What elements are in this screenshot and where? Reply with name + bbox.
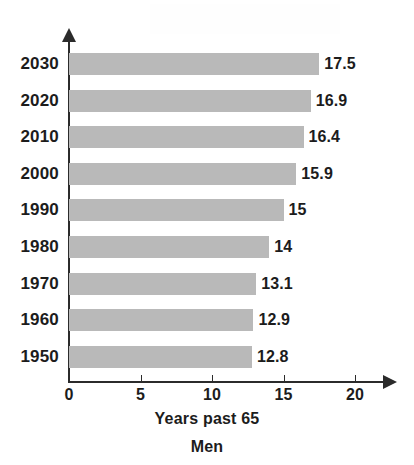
y-axis-arrow-icon <box>62 28 76 42</box>
x-tick <box>69 375 70 382</box>
bar-chart: 203017.5202016.9201016.4200015.919901519… <box>0 0 414 465</box>
bar-row: 203017.5 <box>0 53 414 75</box>
bar <box>69 199 284 221</box>
bar-value-label: 12.9 <box>258 308 290 331</box>
x-axis-line <box>68 381 386 383</box>
x-tick-label: 10 <box>203 386 221 404</box>
x-tick-label: 0 <box>64 386 73 404</box>
x-tick <box>284 375 285 382</box>
x-tick <box>212 375 213 382</box>
category-label: 2030 <box>20 51 59 76</box>
x-axis-subtitle: Men <box>0 438 414 456</box>
bar <box>69 90 311 112</box>
category-label: 1980 <box>20 234 59 259</box>
category-label: 2000 <box>20 161 59 186</box>
category-label: 1960 <box>20 307 59 332</box>
bar-value-label: 16.9 <box>316 89 348 112</box>
bar-row: 197013.1 <box>0 273 414 295</box>
bar-row: 195012.8 <box>0 346 414 368</box>
bar-row: 198014 <box>0 236 414 258</box>
bar-value-label: 16.4 <box>309 125 341 148</box>
bar <box>69 53 319 75</box>
bar-value-label: 14 <box>274 235 292 258</box>
bar <box>69 236 269 258</box>
x-axis-title: Years past 65 <box>0 410 414 428</box>
bar <box>69 346 252 368</box>
bar-row: 199015 <box>0 199 414 221</box>
x-axis-arrow-icon <box>383 375 397 389</box>
x-tick <box>355 375 356 382</box>
x-tick <box>141 375 142 382</box>
bar-value-label: 15.9 <box>301 162 333 185</box>
category-label: 2010 <box>20 124 59 149</box>
bar-row: 202016.9 <box>0 90 414 112</box>
bar-value-label: 13.1 <box>261 272 293 295</box>
bar <box>69 309 253 331</box>
category-label: 2020 <box>20 88 59 113</box>
x-tick-label: 15 <box>274 386 292 404</box>
bar-row: 200015.9 <box>0 163 414 185</box>
x-tick-label: 5 <box>136 386 145 404</box>
bar-row: 201016.4 <box>0 126 414 148</box>
bar-row: 196012.9 <box>0 309 414 331</box>
bar-value-label: 17.5 <box>324 52 356 75</box>
x-tick-label: 20 <box>346 386 364 404</box>
bar-value-label: 12.8 <box>257 345 289 368</box>
category-label: 1950 <box>20 344 59 369</box>
bar <box>69 163 296 185</box>
bar <box>69 273 256 295</box>
category-label: 1970 <box>20 271 59 296</box>
bar-value-label: 15 <box>289 198 307 221</box>
category-label: 1990 <box>20 197 59 222</box>
bar <box>69 126 304 148</box>
plot-area: 203017.5202016.9201016.4200015.919901519… <box>0 0 414 465</box>
